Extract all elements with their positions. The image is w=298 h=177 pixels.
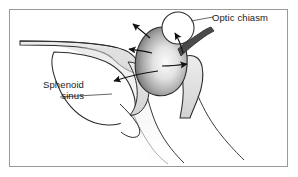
label-sphenoid-sinus-line2: sinus	[22, 91, 84, 102]
figure-page: Optic chiasm Sphenoid sinus	[0, 0, 298, 177]
label-sphenoid-sinus-line1: Sphenoid	[22, 80, 84, 91]
label-sphenoid-sinus: Sphenoid sinus	[22, 80, 84, 101]
arrow-superior-left	[133, 24, 150, 38]
dorsum-sellae-right-bone	[180, 55, 244, 160]
label-optic-chiasm: Optic chiasm	[212, 13, 268, 24]
leader-line-optic-chiasm	[191, 17, 213, 21]
